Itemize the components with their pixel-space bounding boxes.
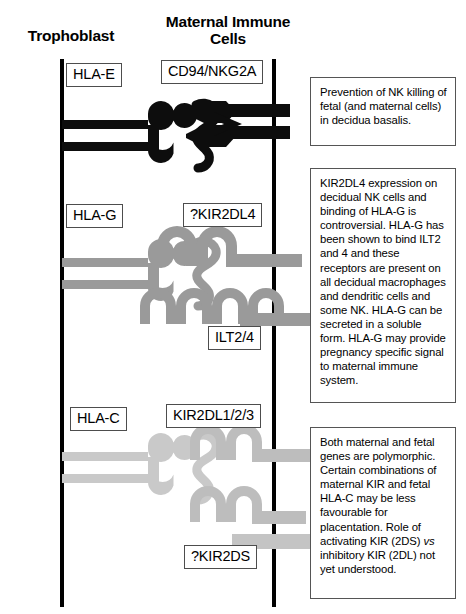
- hla-g-molecule: [62, 239, 216, 306]
- ilt2-4-receptor: [140, 288, 314, 326]
- trophoblast-membrane: [60, 59, 64, 607]
- diagram-canvas: Trophoblast Maternal Immune Cells: [0, 0, 466, 614]
- label-hla-e[interactable]: HLA-E: [66, 63, 122, 87]
- note-polymorphism-text-b: inhibitory KIR (2DL) not yet understood.: [320, 549, 435, 575]
- label-hla-g[interactable]: HLA-G: [66, 204, 123, 228]
- label-kir2dl4[interactable]: ?KIR2DL4: [183, 203, 262, 227]
- note-polymorphism: Both maternal and fetal genes are polymo…: [310, 427, 456, 599]
- trophoblast-column-title: Trophoblast: [6, 27, 136, 44]
- note-nk-prevention: Prevention of NK killing of fetal (and m…: [310, 77, 456, 146]
- label-cd94-nkg2a[interactable]: CD94/NKG2A: [161, 60, 263, 84]
- note-polymorphism-vs: vs: [423, 535, 434, 547]
- note-kir2dl4-hlag: KIR2DL4 expression on decidual NK cells …: [310, 168, 456, 403]
- label-kir2ds[interactable]: ?KIR2DS: [184, 545, 257, 569]
- maternal-immune-cells-column-title: Maternal Immune Cells: [162, 13, 294, 47]
- kir2dl4-receptor: [157, 226, 302, 267]
- label-kir2dl1-2-3[interactable]: KIR2DL1/2/3: [166, 404, 261, 428]
- hla-e-molecule: [62, 101, 216, 168]
- label-ilt2-4[interactable]: ILT2/4: [208, 326, 261, 350]
- label-hla-c[interactable]: HLA-C: [70, 407, 127, 431]
- maternal-cell-membrane: [272, 59, 276, 607]
- kir2dl1-2-3-receptor-upper: [190, 424, 314, 462]
- hla-c-molecule: [62, 433, 216, 500]
- note-polymorphism-text-a: Both maternal and fetal genes are polymo…: [320, 436, 436, 547]
- kir2dl1-2-3-receptor-lower: [190, 486, 306, 524]
